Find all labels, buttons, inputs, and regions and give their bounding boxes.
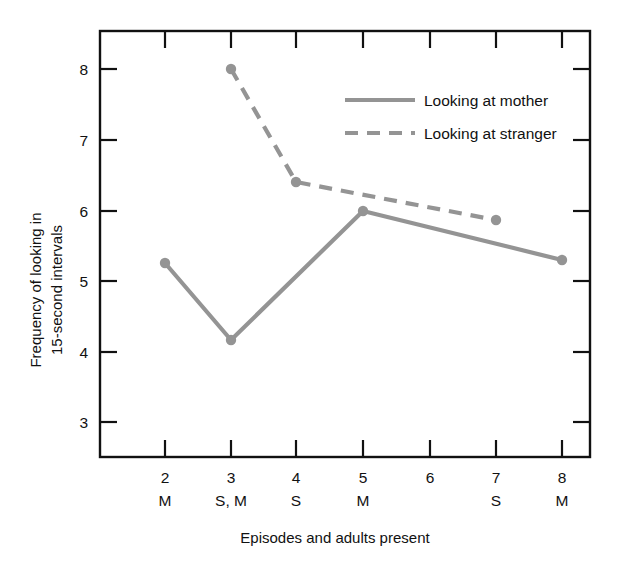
legend-item-looking-at-stranger: Looking at stranger bbox=[345, 125, 557, 142]
x-tick-label-2: 2 bbox=[161, 469, 170, 486]
x-tick-label-4: 4 bbox=[292, 469, 301, 486]
y-tick-label-5: 5 bbox=[79, 273, 88, 290]
x-axis-tick-labels: 2 3 4 5 6 7 8 bbox=[161, 469, 567, 486]
mother-line bbox=[165, 211, 562, 340]
x-sublabel-3: S, M bbox=[215, 492, 247, 509]
y-axis-title-line2: 15-second intervals bbox=[48, 225, 65, 355]
y-axis-ticks bbox=[100, 69, 117, 422]
series-looking-at-stranger bbox=[226, 64, 501, 225]
mother-point-episode-5 bbox=[358, 206, 368, 216]
y-axis-ticks-right bbox=[573, 69, 590, 422]
chart-legend: Looking at mother Looking at stranger bbox=[345, 92, 557, 142]
x-axis-ticks-top bbox=[165, 31, 562, 48]
x-axis-title: Episodes and adults present bbox=[240, 529, 430, 546]
x-sublabel-4: S bbox=[291, 492, 301, 509]
stranger-point-episode-7 bbox=[491, 215, 501, 225]
legend-label-mother: Looking at mother bbox=[424, 92, 548, 109]
stranger-point-episode-3 bbox=[226, 64, 236, 74]
y-tick-label-7: 7 bbox=[79, 132, 88, 149]
x-sublabel-2: M bbox=[159, 492, 172, 509]
x-axis-sublabels: M S, M S M S M bbox=[159, 492, 569, 509]
y-axis-tick-labels: 8 7 6 5 4 3 bbox=[79, 61, 88, 431]
x-axis-ticks bbox=[165, 440, 562, 457]
x-tick-label-7: 7 bbox=[492, 469, 501, 486]
x-sublabel-7: S bbox=[491, 492, 501, 509]
y-tick-label-6: 6 bbox=[79, 203, 88, 220]
mother-point-episode-8 bbox=[557, 255, 567, 265]
x-tick-label-3: 3 bbox=[227, 469, 236, 486]
mother-point-episode-3 bbox=[226, 335, 236, 345]
y-tick-label-3: 3 bbox=[79, 414, 88, 431]
x-tick-label-6: 6 bbox=[426, 469, 435, 486]
chart-canvas: 8 7 6 5 4 3 2 bbox=[0, 0, 624, 566]
x-sublabel-5: M bbox=[357, 492, 370, 509]
series-looking-at-mother bbox=[160, 206, 567, 345]
y-axis-title-line1: Frequency of looking in bbox=[27, 212, 44, 367]
x-sublabel-8: M bbox=[556, 492, 569, 509]
chart-figure: 8 7 6 5 4 3 2 bbox=[0, 0, 624, 566]
legend-item-looking-at-mother: Looking at mother bbox=[345, 92, 548, 109]
y-tick-label-8: 8 bbox=[79, 61, 88, 78]
stranger-point-episode-4 bbox=[291, 177, 301, 187]
legend-label-stranger: Looking at stranger bbox=[424, 125, 557, 142]
x-tick-label-8: 8 bbox=[558, 469, 567, 486]
x-tick-label-5: 5 bbox=[359, 469, 368, 486]
mother-point-episode-2 bbox=[160, 258, 170, 268]
y-tick-label-4: 4 bbox=[79, 344, 88, 361]
